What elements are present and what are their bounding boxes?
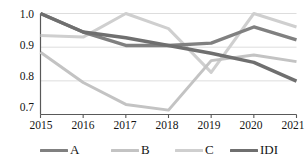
x-tick-label-2019: 2019 <box>192 120 226 132</box>
x-tick-label-2015: 2015 <box>24 120 58 132</box>
legend-label-idi: IDI <box>260 143 278 156</box>
line-chart: 1.0 0.9 0.8 0.7 2015 2016 2017 2018 2019… <box>0 0 307 165</box>
legend-label-b: B <box>141 143 150 156</box>
y-tick-label-2: 0.9 <box>10 40 34 52</box>
data-series <box>41 14 297 111</box>
legend-swatch-c <box>175 149 203 152</box>
x-tick-label-2017: 2017 <box>108 120 142 132</box>
legend-swatch-idi <box>230 149 258 152</box>
x-tick-label-2021: 2021 <box>276 120 307 132</box>
chart-plot-area <box>0 0 307 165</box>
legend-label-c: C <box>205 143 214 156</box>
y-tick-label-4: 0.7 <box>10 102 34 114</box>
x-tick-label-2018: 2018 <box>150 120 184 132</box>
legend-label-a: A <box>70 143 79 156</box>
x-tick-label-2020: 2020 <box>234 120 268 132</box>
legend-swatch-b <box>111 149 139 152</box>
x-tick-label-2016: 2016 <box>66 120 100 132</box>
y-tick-label-3: 0.8 <box>10 71 34 83</box>
legend-swatch-a <box>40 149 68 152</box>
y-tick-label-1: 1.0 <box>10 9 34 21</box>
